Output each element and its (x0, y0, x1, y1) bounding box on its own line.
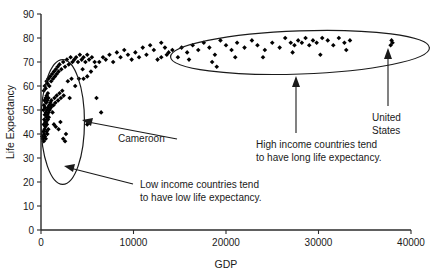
data-point (213, 53, 218, 58)
data-point (92, 60, 97, 65)
data-point (89, 69, 94, 74)
cameroon-label: Cameroon (118, 133, 165, 144)
data-point (283, 36, 288, 41)
high-income-ellipse (170, 26, 430, 78)
data-point (85, 74, 90, 79)
data-point (129, 57, 134, 62)
united-states-label-line1: United (372, 112, 401, 123)
data-point-series (40, 36, 395, 144)
data-point (122, 48, 127, 53)
data-point (196, 48, 201, 53)
data-point (235, 41, 240, 46)
data-point (263, 48, 268, 53)
united-states-label-line2: States (372, 125, 400, 136)
data-point (277, 45, 282, 50)
data-point (63, 65, 68, 70)
data-point (67, 96, 72, 101)
data-point (97, 60, 102, 65)
data-point (229, 48, 234, 53)
data-point (155, 57, 160, 62)
y-tick-label: 70 (23, 57, 35, 68)
data-point (288, 41, 293, 46)
data-point (261, 55, 266, 60)
data-point (152, 48, 157, 53)
x-tick-label: 0 (38, 237, 44, 248)
data-point (185, 50, 190, 55)
low-income-arrow-line (70, 168, 133, 184)
data-point (69, 77, 74, 82)
data-point (144, 53, 149, 58)
data-point (233, 55, 238, 60)
data-point (133, 50, 138, 55)
data-point (58, 120, 63, 125)
data-point (99, 110, 104, 115)
chart-canvas: 0102030405060708090 01000020000300004000… (0, 0, 435, 279)
data-point (159, 55, 164, 60)
data-point (187, 57, 192, 62)
data-point (300, 41, 305, 46)
data-point (214, 65, 219, 70)
data-point (66, 79, 71, 84)
data-point (140, 45, 145, 50)
data-point (290, 50, 295, 55)
y-tick-label: 60 (23, 81, 35, 92)
data-point (93, 65, 98, 70)
united-states-arrow-head (384, 48, 392, 59)
data-point (64, 132, 69, 137)
data-point (250, 38, 255, 43)
scatter-chart: 0102030405060708090 01000020000300004000… (0, 0, 435, 279)
x-tick-label: 40000 (397, 237, 425, 248)
high-income-label-line2: to have long life expectancy. (256, 152, 381, 163)
y-tick-label: 90 (23, 9, 35, 20)
data-point (210, 60, 215, 65)
data-point (320, 36, 325, 41)
cameroon-annotation: Cameroon (82, 118, 177, 144)
data-point (224, 43, 229, 48)
y-tick-label: 30 (23, 153, 35, 164)
x-tick-label: 30000 (305, 237, 333, 248)
data-point (107, 53, 112, 58)
high-income-annotation: High income countries tend to have long … (256, 76, 381, 163)
data-point (163, 45, 168, 50)
data-point (76, 60, 81, 65)
data-point (255, 43, 260, 48)
low-income-label-line2: to have low life expectancy. (140, 192, 262, 203)
data-point (325, 38, 330, 43)
y-tick-label: 20 (23, 177, 35, 188)
data-point (318, 53, 323, 58)
data-point (115, 50, 120, 55)
x-tick-label: 10000 (120, 237, 148, 248)
y-axis-ticks: 0102030405060708090 (23, 9, 41, 236)
data-point (242, 45, 247, 50)
high-income-label-line1: High income countries tend (256, 139, 377, 150)
data-point (303, 36, 308, 41)
low-income-label-line1: Low income countries tend (140, 179, 259, 190)
low-income-arrow-head (64, 164, 75, 172)
x-axis-title: GDP (215, 258, 238, 270)
data-point (159, 41, 164, 46)
y-tick-label: 0 (28, 225, 34, 236)
data-point (207, 45, 212, 50)
data-point (342, 41, 347, 46)
data-point (348, 38, 353, 43)
high-income-arrow-head (292, 76, 300, 87)
data-point (83, 60, 88, 65)
low-income-annotation: Low income countries tend to have low li… (64, 164, 262, 203)
data-point (176, 55, 181, 60)
data-point (68, 55, 73, 60)
y-axis-title: Life Expectancy (4, 84, 16, 159)
x-tick-label: 20000 (212, 237, 240, 248)
data-point (337, 36, 342, 41)
data-point (73, 84, 78, 89)
data-point (314, 41, 319, 46)
data-point (111, 60, 116, 65)
data-point (296, 38, 301, 43)
data-point (292, 43, 297, 48)
data-point (311, 38, 316, 43)
data-point (331, 43, 336, 48)
data-point (307, 43, 312, 48)
data-point (78, 53, 83, 58)
data-point (85, 53, 90, 58)
united-states-annotation: United States (372, 48, 401, 136)
y-tick-label: 10 (23, 201, 35, 212)
